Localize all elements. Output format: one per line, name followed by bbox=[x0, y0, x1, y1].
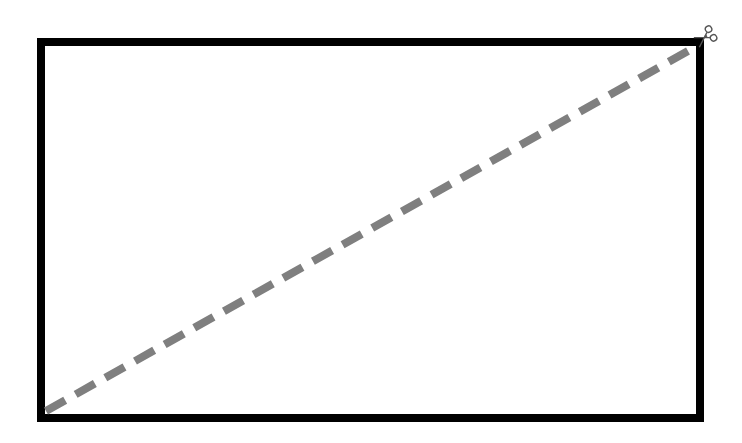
diagram-canvas bbox=[0, 0, 742, 443]
dashed-cut-line bbox=[46, 46, 697, 411]
